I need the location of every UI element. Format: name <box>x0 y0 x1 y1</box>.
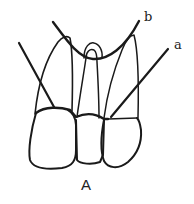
right-crown <box>101 118 141 167</box>
right-crown-top <box>108 118 137 119</box>
label-a: a <box>174 38 182 51</box>
figure-caption: A <box>81 177 91 192</box>
middle-crown <box>76 120 104 164</box>
left-crown <box>29 110 76 169</box>
left-root-outline <box>35 37 72 114</box>
diagram-canvas <box>0 0 194 204</box>
line-a <box>111 49 168 117</box>
middle-root-left <box>77 58 86 117</box>
label-b: b <box>144 10 152 23</box>
